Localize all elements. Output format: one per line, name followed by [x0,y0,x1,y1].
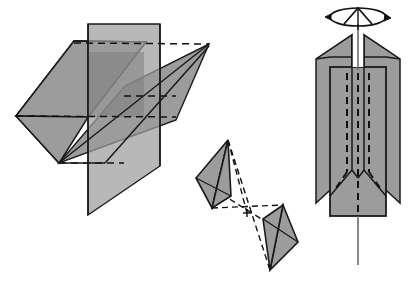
plane-overlap-shadow [88,52,144,117]
symmetry-elements-figure [0,0,413,301]
